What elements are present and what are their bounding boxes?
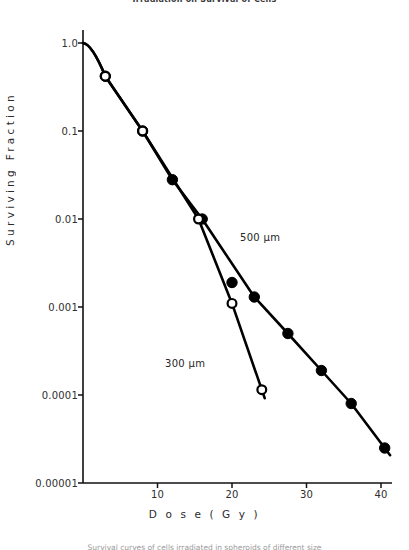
curve-lines	[83, 43, 390, 455]
bottom-caption: Survival curves of cells irradiated in s…	[0, 543, 409, 550]
axis-lines	[78, 30, 392, 488]
data-markers	[100, 71, 390, 453]
